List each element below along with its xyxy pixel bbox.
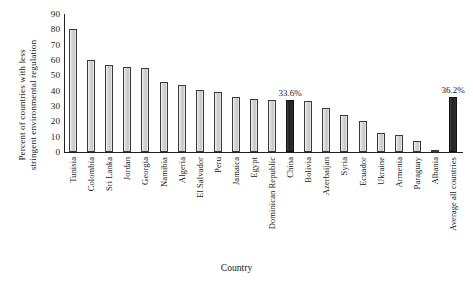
plot-area: 0102030405060708090 33.6%36.2%: [64, 14, 462, 152]
bar-ecuador[interactable]: [359, 121, 367, 152]
x-label-slot: Bolivia: [299, 155, 317, 255]
x-label-slot: Algeria: [173, 155, 191, 255]
x-label-slot: Dominican Republic: [263, 155, 281, 255]
bar-slot: [118, 14, 136, 152]
x-axis-label-albania: Albania: [430, 157, 440, 185]
bar-dominican-republic[interactable]: [268, 100, 276, 152]
bar-slot: [191, 14, 209, 152]
x-axis-label-paraguay: Paraguay: [412, 157, 422, 189]
x-axis-label-algeria: Algeria: [177, 157, 187, 183]
bar-armenia[interactable]: [395, 135, 403, 152]
x-axis-label-ukraine: Ukraine: [376, 157, 386, 185]
bar-jamaica[interactable]: [232, 97, 240, 152]
y-axis-tick-90: 90: [51, 9, 64, 19]
x-label-slot: Jamaica: [227, 155, 245, 255]
bar-colombia[interactable]: [87, 60, 95, 152]
x-label-slot: Tunisia: [64, 155, 82, 255]
bars-container: 33.6%36.2%: [64, 14, 462, 152]
y-axis-tick-10: 10: [51, 132, 64, 142]
bar-syria[interactable]: [340, 115, 348, 152]
bar-slot: [426, 14, 444, 152]
y-axis-title-line-2: stringent environmental regulation: [28, 40, 40, 170]
x-axis-label-peru: Peru: [213, 157, 223, 173]
bar-tunisia[interactable]: [69, 29, 77, 152]
x-label-slot: Namibia: [154, 155, 172, 255]
x-label-slot: Average all countries: [444, 155, 462, 255]
x-label-slot: Albania: [426, 155, 444, 255]
x-axis-line: [64, 152, 463, 153]
bar-value-label-average-all-countries: 36.2%: [441, 85, 464, 95]
bar-slot: [136, 14, 154, 152]
bar-slot: 33.6%: [281, 14, 299, 152]
x-label-slot: Egypt: [245, 155, 263, 255]
y-axis-tick-60: 60: [51, 55, 64, 65]
bar-peru[interactable]: [214, 92, 222, 152]
x-axis-label-el-salvador: El Salvador: [195, 157, 205, 198]
bar-slot: [82, 14, 100, 152]
bar-slot: [390, 14, 408, 152]
x-label-slot: China: [281, 155, 299, 255]
bar-el-salvador[interactable]: [196, 90, 204, 152]
x-axis-label-egypt: Egypt: [249, 157, 259, 178]
x-axis-label-ecuador: Ecuador: [358, 157, 368, 186]
x-axis-label-tunisia: Tunisia: [68, 157, 78, 183]
x-label-slot: El Salvador: [191, 155, 209, 255]
bar-slot: 36.2%: [444, 14, 462, 152]
x-label-slot: Sri Lanka: [100, 155, 118, 255]
bar-slot: [209, 14, 227, 152]
x-axis-label-syria: Syria: [339, 157, 349, 175]
y-axis-tick-20: 20: [51, 116, 64, 126]
bar-chart-figure: Percent of countries with less stringent…: [0, 0, 473, 292]
x-axis-label-jordan: Jordan: [122, 157, 132, 180]
x-label-slot: Ecuador: [354, 155, 372, 255]
y-axis-title-line-1: Percent of countries with less: [17, 40, 29, 170]
y-axis-title: Percent of countries with less stringent…: [11, 20, 45, 190]
bar-slot: [354, 14, 372, 152]
x-axis-label-armenia: Armenia: [394, 157, 404, 187]
y-axis-tick-40: 40: [51, 86, 64, 96]
x-axis-label-jamaica: Jamaica: [231, 157, 241, 185]
bar-slot: [372, 14, 390, 152]
x-label-slot: Paraguay: [408, 155, 426, 255]
x-label-slot: Ukraine: [372, 155, 390, 255]
x-label-slot: Syria: [335, 155, 353, 255]
y-axis-tick-30: 30: [51, 101, 64, 111]
x-axis-label-namibia: Namibia: [159, 157, 169, 187]
bar-bolivia[interactable]: [304, 101, 312, 152]
y-axis-tick-0: 0: [55, 147, 64, 157]
bar-azerbaijan[interactable]: [322, 108, 330, 152]
bar-sri-lanka[interactable]: [105, 65, 113, 152]
x-axis-label-bolivia: Bolivia: [303, 157, 313, 183]
bar-ukraine[interactable]: [377, 133, 385, 152]
bar-namibia[interactable]: [160, 82, 168, 152]
bar-paraguay[interactable]: [413, 141, 421, 152]
bar-average-all-countries[interactable]: 36.2%: [449, 97, 457, 153]
x-label-slot: Armenia: [390, 155, 408, 255]
x-axis-label-china: China: [285, 157, 295, 178]
bar-slot: [299, 14, 317, 152]
bar-china[interactable]: 33.6%: [286, 100, 294, 152]
bar-slot: [245, 14, 263, 152]
bar-algeria[interactable]: [178, 85, 186, 152]
x-axis-label-dominican-republic: Dominican Republic: [267, 157, 277, 229]
bar-jordan[interactable]: [123, 67, 131, 152]
x-label-slot: Jordan: [118, 155, 136, 255]
y-axis-tick-50: 50: [51, 70, 64, 80]
x-label-slot: Peru: [209, 155, 227, 255]
x-axis-title: Country: [0, 262, 473, 273]
bar-slot: [64, 14, 82, 152]
bar-slot: [100, 14, 118, 152]
x-axis-label-sri-lanka: Sri Lanka: [104, 157, 114, 191]
bar-slot: [335, 14, 353, 152]
x-axis-label-average-all-countries: Average all countries: [448, 157, 458, 231]
bar-slot: [408, 14, 426, 152]
x-label-slot: Azerbaijan: [317, 155, 335, 255]
bar-albania[interactable]: [431, 150, 439, 152]
x-label-slot: Colombia: [82, 155, 100, 255]
bar-slot: [154, 14, 172, 152]
x-axis-label-azerbaijan: Azerbaijan: [321, 157, 331, 195]
bar-georgia[interactable]: [141, 68, 149, 152]
bar-egypt[interactable]: [250, 99, 258, 152]
bar-slot: [227, 14, 245, 152]
x-axis-tick-labels: TunisiaColombiaSri LankaJordanGeorgiaNam…: [64, 155, 462, 255]
